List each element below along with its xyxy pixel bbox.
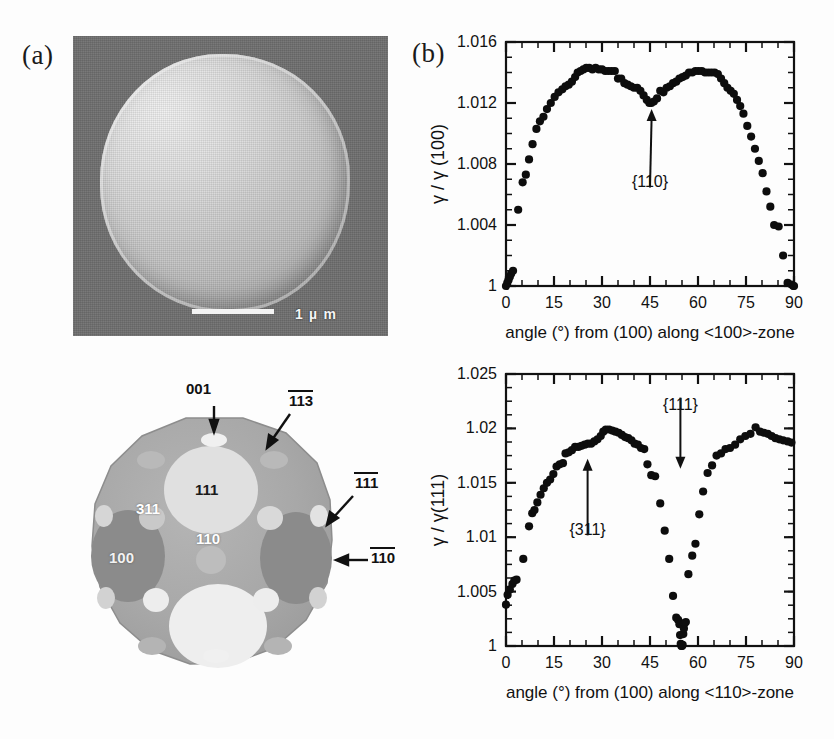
sem-particle-rim	[100, 54, 350, 312]
data-point	[684, 570, 692, 578]
chart-gamma-100-zone: 015304560759011.0041.0081.0121.016angle …	[420, 30, 826, 360]
y-tick-label: 1.016	[457, 33, 497, 50]
data-point	[643, 460, 651, 468]
data-point	[699, 487, 707, 495]
data-point	[746, 430, 754, 438]
annotation-label: {110}	[632, 173, 669, 190]
data-points	[502, 423, 796, 650]
plot-frame	[506, 374, 794, 646]
crystal-face-label-100: 100	[109, 549, 134, 566]
x-axis-title: angle (°) from (100) along <100>-zone	[505, 323, 794, 342]
data-point	[743, 122, 751, 130]
crystal-pointer-text-1bar11: 111	[355, 474, 378, 491]
data-point	[519, 178, 527, 186]
data-point	[695, 510, 703, 518]
x-tick-label: 30	[593, 654, 611, 671]
x-tick-label: 60	[689, 654, 707, 671]
y-tick-label: 1.015	[457, 474, 497, 491]
crystal-pointer-text-1bar13: 113	[289, 392, 313, 409]
y-tick-label: 1.012	[457, 94, 497, 111]
crystal-face-label-110: 110	[196, 530, 220, 547]
panel-a-label: (a)	[22, 40, 53, 71]
x-tick-label: 60	[689, 294, 707, 311]
crystal-pointer-label-1bar13: 113	[288, 392, 313, 409]
data-point	[539, 113, 547, 121]
data-point	[679, 641, 687, 649]
x-tick-label: 15	[545, 654, 563, 671]
data-point	[691, 540, 699, 548]
chart-bottom-svg: 015304560759011.0051.011.0151.021.025ang…	[420, 362, 826, 712]
data-point	[682, 618, 690, 626]
data-point	[512, 576, 520, 584]
x-tick-label: 30	[593, 294, 611, 311]
data-point	[640, 445, 648, 453]
data-point	[766, 203, 774, 211]
data-point	[509, 267, 517, 275]
y-tick-label: 1	[488, 637, 497, 654]
y-tick-label: 1.008	[457, 155, 497, 172]
data-point	[736, 102, 744, 110]
scale-bar-label: 1 µ m	[295, 306, 337, 322]
data-point	[755, 157, 763, 165]
y-axis-title: γ / γ(111)	[428, 474, 448, 546]
chart-gamma-111-zone: 015304560759011.0051.011.0151.021.025ang…	[420, 362, 826, 712]
x-axis-title: angle (°) from (100) along <110>-zone	[506, 683, 794, 702]
y-tick-label: 1.02	[466, 419, 497, 436]
y-tick-label: 1.004	[457, 216, 497, 233]
crystal-pointer-label-1bar11: 111	[354, 474, 378, 491]
data-point	[661, 527, 669, 535]
data-point	[759, 169, 767, 177]
data-point	[522, 171, 530, 179]
x-tick-label: 75	[737, 294, 755, 311]
axis-ticks	[506, 374, 794, 646]
data-point	[790, 282, 798, 290]
data-point	[704, 469, 712, 477]
crystal-face-label-111: 111	[195, 481, 218, 498]
sem-micrograph: 1 µ m	[73, 36, 388, 336]
x-tick-label: 45	[641, 654, 659, 671]
y-tick-label: 1.025	[457, 365, 497, 382]
data-point	[525, 522, 533, 530]
data-point	[747, 132, 755, 140]
crystal-pointer-label-1bar10: 110	[370, 549, 395, 566]
data-point	[653, 94, 661, 102]
crystal-pointer-text-1bar10: 110	[371, 549, 395, 566]
axis-major-ticks	[506, 374, 794, 646]
chart-top-svg: 015304560759011.0041.0081.0121.016angle …	[420, 30, 826, 360]
crystal-pointer-text-001: 001	[186, 380, 211, 397]
x-tick-label: 90	[785, 294, 803, 311]
y-tick-label: 1.005	[457, 583, 497, 600]
x-tick-label: 15	[545, 294, 563, 311]
data-point	[525, 155, 533, 163]
data-point	[651, 472, 659, 480]
data-point	[532, 125, 540, 133]
data-point	[775, 222, 783, 230]
y-tick-label: 1	[488, 277, 497, 294]
y-axis-title: γ / γ (100)	[428, 124, 448, 204]
data-point	[611, 67, 619, 75]
x-tick-label: 75	[737, 654, 755, 671]
data-point	[787, 438, 795, 446]
data-point	[669, 592, 677, 600]
crystal-face-label-311: 311	[136, 500, 160, 517]
data-point	[665, 555, 673, 563]
data-point	[502, 601, 510, 609]
data-point	[688, 552, 696, 560]
data-point	[708, 461, 716, 469]
data-point	[519, 555, 527, 563]
data-point	[739, 110, 747, 118]
scale-bar	[192, 309, 274, 314]
figure-root: (a) (b) 1 µ m	[0, 0, 834, 739]
data-point	[533, 498, 541, 506]
crystal-habit-diagram: 001 113 111 110 111 311 110 100	[38, 378, 398, 708]
y-tick-label: 1.01	[466, 528, 497, 545]
data-point	[549, 470, 557, 478]
data-point	[779, 251, 787, 259]
data-point	[751, 145, 759, 153]
annotation-label: {311}	[569, 521, 606, 538]
data-point	[528, 140, 536, 148]
data-point	[530, 506, 538, 514]
x-tick-label: 45	[641, 294, 659, 311]
x-tick-label: 0	[502, 294, 511, 311]
data-point	[514, 206, 522, 214]
